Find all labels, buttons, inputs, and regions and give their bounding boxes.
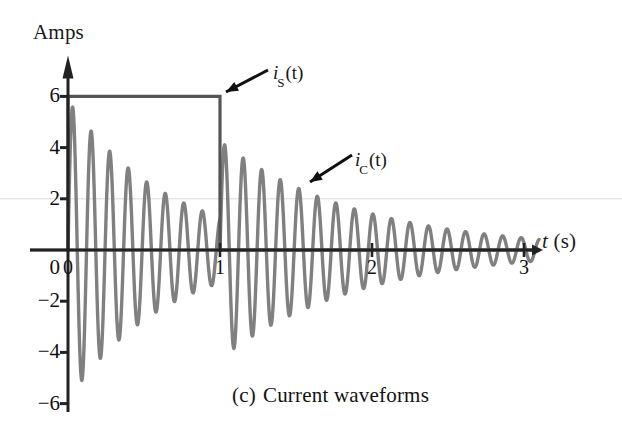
source-current-arg: (t): [286, 62, 304, 83]
y-tick-label-6: 6: [36, 83, 60, 108]
x-tick-label-3: 3: [509, 256, 539, 279]
y-tick-label-4: 4: [36, 135, 60, 160]
x-axis-title: t (s): [542, 229, 576, 254]
source-current-subscript: S: [277, 75, 284, 90]
x-tick-label-0: 0: [53, 256, 83, 279]
capacitor-current-arg: (t): [369, 149, 387, 170]
capacitor-current-label: iC(t): [355, 149, 387, 175]
x-tick-label-1: 1: [205, 256, 235, 279]
y-tick-label-neg4: −4: [22, 339, 60, 364]
y-axis-title: Amps: [33, 20, 84, 45]
caption-index: (c): [232, 383, 256, 407]
capacitor-current-subscript: C: [359, 162, 368, 177]
capacitor-current-curve: [68, 107, 539, 380]
chart-plot-area: [0, 0, 622, 437]
y-tick-label-2: 2: [36, 186, 60, 211]
figure-caption: (c)Current waveforms: [232, 383, 429, 408]
source-current-label: iS(t): [273, 62, 303, 88]
x-tick-label-2: 2: [357, 256, 387, 279]
current-waveforms-figure: Amps t (s) iS(t) iC(t) −6−4−20246 0123 (…: [0, 0, 622, 437]
y-tick-label-neg6: −6: [22, 391, 60, 416]
x-axis-unit: (s): [554, 229, 577, 253]
y-tick-label-neg2: −2: [22, 288, 60, 313]
caption-text: Current waveforms: [263, 383, 429, 407]
